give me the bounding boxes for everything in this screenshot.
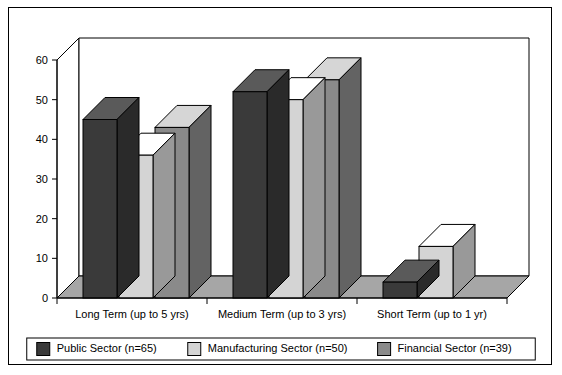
legend-item-label: Manufacturing Sector (n=50) xyxy=(208,342,348,354)
y-axis-tick-label: 30 xyxy=(36,173,48,185)
y-axis-tick-label: 20 xyxy=(36,213,48,225)
bar-3d[interactable] xyxy=(83,98,139,299)
legend-item[interactable]: Manufacturing Sector (n=50) xyxy=(188,342,348,355)
legend-swatch xyxy=(378,343,391,356)
y-axis-tick-label: 40 xyxy=(36,133,48,145)
x-axis-category-label: Short Term (up to 1 yr) xyxy=(377,308,487,320)
bar-side-face xyxy=(117,98,139,299)
left-wall-panel xyxy=(57,38,79,298)
bar-front-face xyxy=(83,120,117,299)
legend: Public Sector (n=65)Manufacturing Sector… xyxy=(27,338,536,360)
x-axis-category-label: Medium Term (up to 3 yrs) xyxy=(218,308,346,320)
plot-area: 0102030405060Long Term (up to 5 yrs)Medi… xyxy=(9,8,553,366)
legend-swatch xyxy=(37,343,50,356)
legend-item-label: Public Sector (n=65) xyxy=(57,342,157,354)
legend-item[interactable]: Financial Sector (n=39) xyxy=(378,342,512,355)
bar-side-face xyxy=(267,70,289,298)
bar-side-face xyxy=(189,105,211,298)
y-axis-tick-label: 0 xyxy=(42,292,48,304)
y-axis-tick-label: 50 xyxy=(36,94,48,106)
bar-front-face xyxy=(383,282,417,298)
legend-item-label: Financial Sector (n=39) xyxy=(398,342,512,354)
bar-side-face xyxy=(339,58,361,298)
bar-front-face xyxy=(233,92,267,298)
bar-side-face xyxy=(153,133,175,298)
x-axis-category-label: Long Term (up to 5 yrs) xyxy=(75,308,189,320)
x-axis: Long Term (up to 5 yrs)Medium Term (up t… xyxy=(57,298,507,320)
legend-swatch xyxy=(188,343,201,356)
bar-chart-3d: 0102030405060Long Term (up to 5 yrs)Medi… xyxy=(9,8,553,366)
y-axis-tick-label: 60 xyxy=(36,54,48,66)
chart-frame: 0102030405060Long Term (up to 5 yrs)Medi… xyxy=(8,7,552,365)
bar-3d[interactable] xyxy=(233,70,289,298)
bar-side-face xyxy=(303,78,325,298)
y-axis: 0102030405060 xyxy=(36,54,57,304)
y-axis-tick-label: 10 xyxy=(36,252,48,264)
